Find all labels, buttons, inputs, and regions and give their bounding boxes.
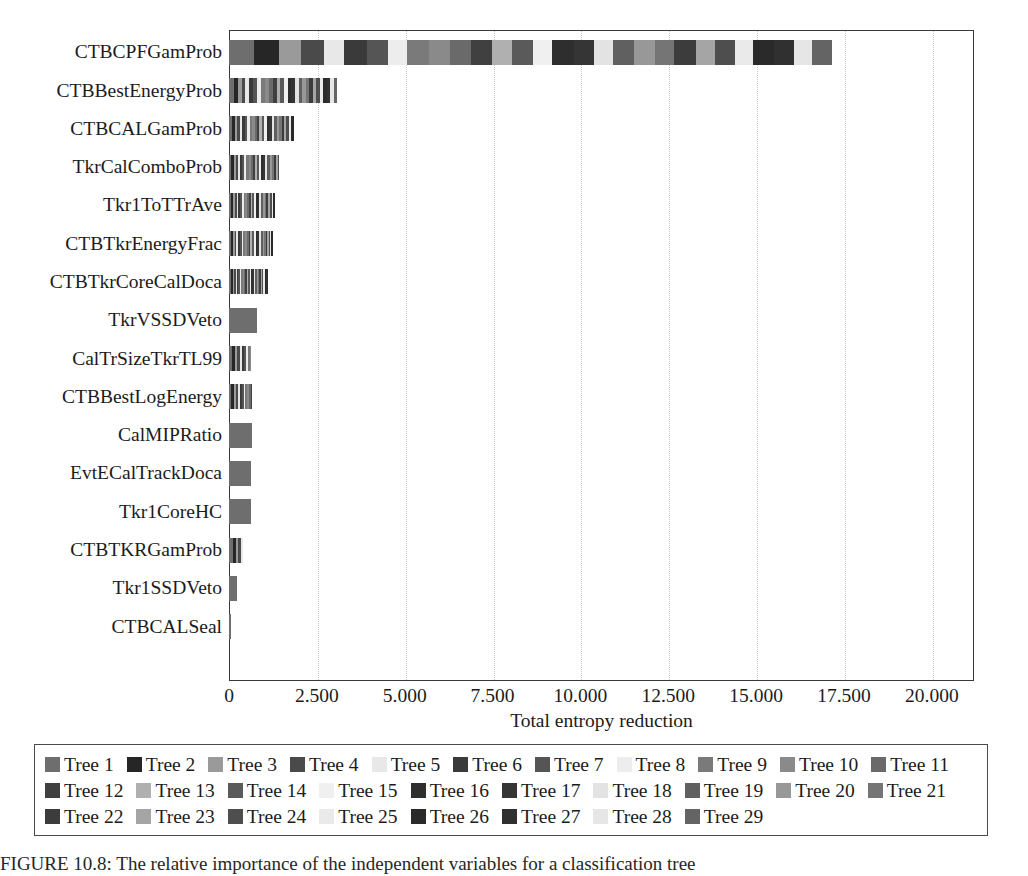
bar-row[interactable] (229, 112, 294, 146)
stacked-bar[interactable] (229, 40, 832, 65)
legend-item[interactable]: Tree 8 (617, 754, 686, 775)
x-axis-tick-label: 7.500 (471, 684, 515, 708)
stacked-bar[interactable] (229, 308, 257, 333)
legend-swatch-icon (593, 783, 608, 798)
stacked-bar[interactable] (229, 193, 275, 218)
stacked-bar[interactable] (229, 116, 294, 141)
legend-item[interactable]: Tree 18 (593, 780, 671, 801)
y-axis-label: CTBCPFGamProb (0, 41, 222, 63)
legend-item[interactable]: Tree 11 (871, 754, 949, 775)
y-axis-label: EvtECalTrackDoca (0, 462, 222, 484)
stacked-bar[interactable] (229, 155, 279, 180)
legend-label: Tree 24 (247, 806, 306, 827)
stacked-bar[interactable] (229, 231, 273, 256)
x-axis-tick-label: 0 (224, 684, 234, 708)
bar-row[interactable] (229, 74, 339, 108)
bar-segment (250, 346, 252, 371)
bar-row[interactable] (229, 418, 252, 452)
legend-item[interactable]: Tree 28 (593, 806, 671, 827)
legend-label: Tree 14 (247, 780, 306, 801)
legend-label: Tree 9 (717, 754, 767, 775)
legend-item[interactable]: Tree 19 (685, 780, 763, 801)
bar-row[interactable] (229, 35, 832, 69)
bar-row[interactable] (229, 456, 251, 490)
legend-label: Tree 13 (155, 780, 214, 801)
x-axis-tick-label: 17.500 (817, 684, 871, 708)
legend-swatch-icon (208, 757, 223, 772)
bar-segment (471, 40, 493, 65)
legend-item[interactable]: Tree 27 (502, 806, 580, 827)
legend-item[interactable]: Tree 16 (411, 780, 489, 801)
bar-segment (634, 40, 654, 65)
bar-segment (492, 40, 512, 65)
bar-segment (229, 308, 257, 333)
legend-item[interactable]: Tree 17 (502, 780, 580, 801)
stacked-bar[interactable] (229, 576, 237, 601)
y-axis-label: CTBBestLogEnergy (0, 386, 222, 408)
legend-item[interactable]: Tree 5 (372, 754, 441, 775)
legend-item[interactable]: Tree 25 (319, 806, 397, 827)
legend-item[interactable]: Tree 6 (453, 754, 522, 775)
legend-item[interactable]: Tree 29 (685, 806, 763, 827)
bar-row[interactable] (229, 571, 237, 605)
legend-item[interactable]: Tree 10 (780, 754, 858, 775)
stacked-bar[interactable] (229, 346, 256, 371)
legend-label: Tree 20 (795, 780, 854, 801)
legend-item[interactable]: Tree 3 (208, 754, 277, 775)
y-axis-label: CalTrSizeTkrTL99 (0, 348, 222, 370)
x-axis-tick-label: 5.000 (383, 684, 427, 708)
legend-swatch-icon (228, 783, 243, 798)
legend-item[interactable]: Tree 2 (127, 754, 196, 775)
bar-segment (407, 40, 429, 65)
bar-row[interactable] (229, 265, 268, 299)
legend-swatch-icon (776, 783, 791, 798)
bar-row[interactable] (229, 533, 243, 567)
bar-row[interactable] (229, 150, 279, 184)
bar-row[interactable] (229, 610, 231, 644)
stacked-bar[interactable] (229, 614, 231, 639)
legend-item[interactable]: Tree 14 (228, 780, 306, 801)
stacked-bar[interactable] (229, 269, 268, 294)
x-axis-title: Total entropy reduction (229, 710, 974, 732)
legend-swatch-icon (698, 757, 713, 772)
stacked-bar[interactable] (229, 461, 251, 486)
bar-segment (294, 116, 295, 141)
legend-item[interactable]: Tree 26 (411, 806, 489, 827)
legend-item[interactable]: Tree 1 (45, 754, 114, 775)
legend-item[interactable]: Tree 9 (698, 754, 767, 775)
legend-swatch-icon (685, 809, 700, 824)
stacked-bar[interactable] (229, 423, 252, 448)
bar-row[interactable] (229, 227, 273, 261)
legend-swatch-icon (136, 809, 151, 824)
legend-label: Tree 15 (338, 780, 397, 801)
bar-row[interactable] (229, 380, 254, 414)
bar-row[interactable] (229, 342, 256, 376)
y-axis-label: CalMIPRatio (0, 424, 222, 446)
legend-item[interactable]: Tree 20 (776, 780, 854, 801)
y-axis-label: CTBCALGamProb (0, 118, 222, 140)
bar-segment (324, 40, 344, 65)
bar-row[interactable] (229, 188, 275, 222)
bar-row[interactable] (229, 495, 251, 529)
stacked-bar[interactable] (229, 499, 251, 524)
legend-item[interactable]: Tree 22 (45, 806, 123, 827)
bar-segment (715, 40, 735, 65)
legend-item[interactable]: Tree 15 (319, 780, 397, 801)
bar-row[interactable] (229, 303, 257, 337)
stacked-bar[interactable] (229, 538, 243, 563)
legend-item[interactable]: Tree 21 (868, 780, 946, 801)
legend-item[interactable]: Tree 24 (228, 806, 306, 827)
legend-item[interactable]: Tree 13 (136, 780, 214, 801)
bar-segment (278, 155, 279, 180)
bar-segment (552, 40, 574, 65)
stacked-bar[interactable] (229, 78, 339, 103)
legend-item[interactable]: Tree 12 (45, 780, 123, 801)
stacked-bar[interactable] (229, 384, 254, 409)
legend-label: Tree 12 (64, 780, 123, 801)
legend-label: Tree 17 (521, 780, 580, 801)
legend-item[interactable]: Tree 23 (136, 806, 214, 827)
legend-item[interactable]: Tree 7 (535, 754, 604, 775)
legend-item[interactable]: Tree 4 (290, 754, 359, 775)
y-axis-label: Tkr1ToTTrAve (0, 194, 222, 216)
legend-label: Tree 26 (430, 806, 489, 827)
